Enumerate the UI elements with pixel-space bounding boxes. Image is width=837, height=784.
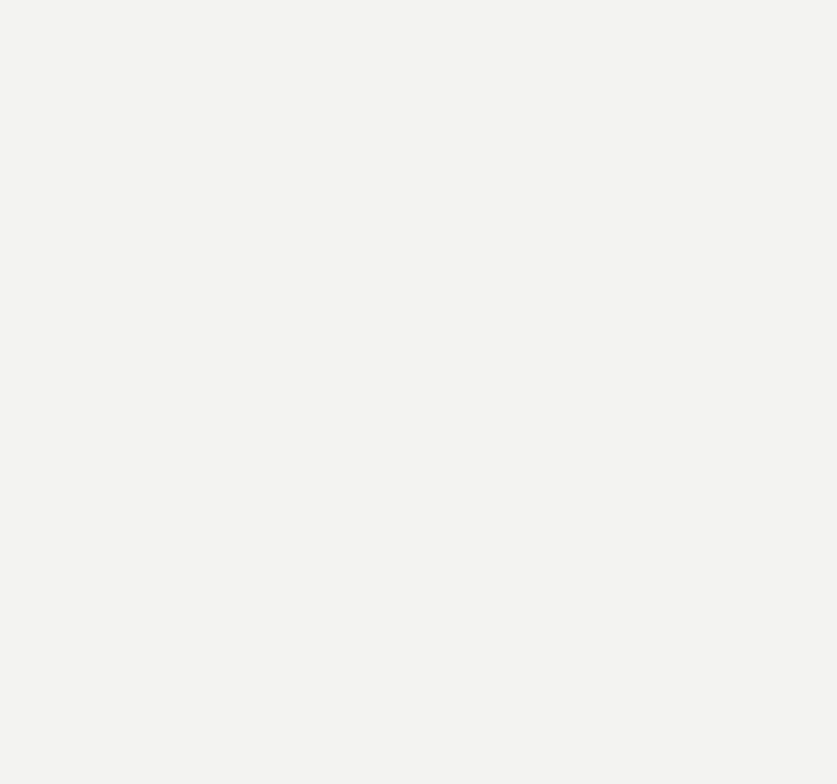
- close-packing-diagram: [0, 0, 837, 784]
